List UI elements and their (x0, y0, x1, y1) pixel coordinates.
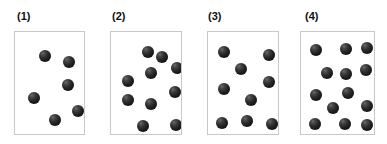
sphere-marker (266, 118, 278, 130)
sphere-marker (327, 102, 339, 114)
sphere-marker (339, 118, 351, 130)
sphere-marker (122, 75, 134, 87)
panel-box-4 (300, 31, 375, 135)
sphere-marker (360, 64, 372, 76)
sphere-marker (63, 56, 75, 68)
sphere-marker (39, 50, 51, 62)
sphere-marker (145, 98, 157, 110)
sphere-marker (235, 63, 247, 75)
sphere-marker (72, 105, 84, 117)
sphere-marker (321, 67, 333, 79)
sphere-marker (156, 51, 168, 63)
sphere-marker (137, 120, 149, 132)
sphere-marker (263, 49, 275, 61)
panel-label-3: (3) (208, 10, 221, 22)
panel-box-3 (207, 31, 279, 135)
sphere-marker (216, 117, 228, 129)
sphere-marker (62, 79, 74, 91)
sphere-marker (171, 62, 182, 74)
panel-box-1 (14, 31, 85, 135)
sphere-marker (361, 42, 373, 54)
sphere-marker (310, 44, 322, 56)
sphere-marker (218, 46, 230, 58)
sphere-marker (122, 94, 134, 106)
sphere-marker (310, 89, 322, 101)
sphere-marker (49, 114, 61, 126)
sphere-marker (28, 92, 40, 104)
sphere-marker (142, 46, 154, 58)
sphere-marker (245, 94, 257, 106)
sphere-marker (340, 68, 352, 80)
sphere-marker (169, 86, 181, 98)
panel-label-2: (2) (112, 10, 125, 22)
sphere-marker (170, 119, 182, 131)
sphere-marker (361, 119, 373, 131)
sphere-marker (241, 115, 253, 127)
figure-container: (1)(2)(3)(4) (0, 0, 387, 144)
sphere-marker (342, 87, 354, 99)
sphere-marker (340, 43, 352, 55)
sphere-marker (145, 67, 157, 79)
sphere-marker (218, 83, 230, 95)
panel-box-2 (110, 31, 182, 135)
panel-label-1: (1) (17, 10, 30, 22)
sphere-marker (309, 118, 321, 130)
sphere-marker (263, 76, 275, 88)
panel-label-4: (4) (305, 10, 318, 22)
sphere-marker (361, 100, 373, 112)
